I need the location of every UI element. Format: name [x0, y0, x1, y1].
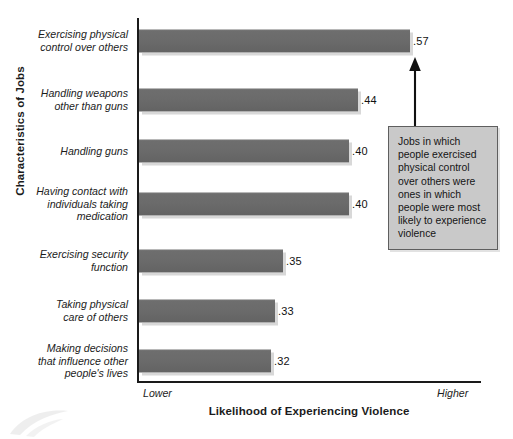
category-label-line: medication [6, 210, 128, 223]
category-label-line: Having contact with [6, 185, 128, 198]
callout-text: Jobs in which people exercised physical … [398, 135, 489, 241]
bar-row: Taking physical care of others .33 [0, 291, 513, 331]
x-axis-title: Likelihood of Experiencing Violence [137, 405, 481, 417]
bar-value-label: .57 [413, 35, 429, 47]
bar-row: Making decisions that influence other pe… [0, 341, 513, 381]
category-label: Having contact with individuals taking m… [6, 185, 128, 223]
category-label-line: control over others [6, 41, 128, 54]
bar-container [139, 350, 271, 373]
category-label-line: Making decisions [6, 342, 128, 355]
category-label-line: other than guns [6, 100, 128, 113]
callout-arrow-icon [404, 57, 426, 129]
callout-box: Jobs in which people exercised physical … [388, 126, 498, 250]
category-label: Handling guns [6, 145, 128, 158]
category-label-line: people's lives [6, 367, 128, 380]
bar-container [139, 300, 275, 323]
bar-value-label: .33 [278, 305, 294, 317]
bar[interactable] [139, 300, 275, 323]
bar-value-label: .44 [361, 94, 377, 106]
x-axis-low-label: Lower [143, 387, 172, 399]
category-label-line: Taking physical [6, 298, 128, 311]
bar[interactable] [139, 89, 358, 112]
category-label: Taking physical care of others [6, 298, 128, 323]
category-label: Exercising physical control over others [6, 28, 128, 53]
watermark-logo-icon [8, 408, 103, 438]
category-label-line: Exercising physical [6, 28, 128, 41]
bar-container [139, 89, 358, 112]
bar[interactable] [139, 193, 349, 216]
category-label: Making decisions that influence other pe… [6, 342, 128, 380]
bar-container [139, 30, 410, 53]
category-label-line: Handling weapons [6, 87, 128, 100]
category-label-line: Exercising security [6, 248, 128, 261]
category-label-line: care of others [6, 311, 128, 324]
bar[interactable] [139, 250, 283, 273]
bar-row: Handling weapons other than guns .44 [0, 80, 513, 120]
chart-figure: Characteristics of Jobs Exercising physi… [0, 0, 513, 439]
x-axis-high-label: Higher [437, 387, 468, 399]
bar-value-label: .40 [352, 198, 368, 210]
bar-container [139, 250, 283, 273]
category-label-line: function [6, 261, 128, 274]
bar-container [139, 193, 349, 216]
bar[interactable] [139, 350, 271, 373]
bar-row: Exercising physical control over others … [0, 21, 513, 61]
bar-value-label: .35 [286, 255, 302, 267]
bar[interactable] [139, 140, 349, 163]
bar-value-label: .40 [352, 145, 368, 157]
category-label-line: individuals taking [6, 198, 128, 211]
bar-value-label: .32 [274, 355, 290, 367]
category-label: Handling weapons other than guns [6, 87, 128, 112]
category-label: Exercising security function [6, 248, 128, 273]
category-label-line: Handling guns [6, 145, 128, 158]
bar[interactable] [139, 30, 410, 53]
category-label-line: that influence other [6, 355, 128, 368]
bar-container [139, 140, 349, 163]
